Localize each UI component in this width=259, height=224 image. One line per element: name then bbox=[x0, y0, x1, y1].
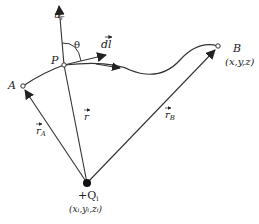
label-r: r bbox=[84, 111, 90, 122]
label-A: A bbox=[7, 79, 16, 92]
point-B bbox=[216, 44, 220, 48]
label-rB: rB bbox=[165, 109, 175, 122]
vector-rB bbox=[87, 50, 215, 183]
label-P: P bbox=[50, 54, 59, 67]
label-B: B bbox=[232, 42, 241, 55]
charge-Q bbox=[83, 179, 91, 187]
label-ur: ûr bbox=[54, 9, 64, 22]
label-dl: dl bbox=[101, 38, 112, 51]
label-rA: rA bbox=[36, 125, 46, 138]
label-B-coords: (x,y,z) bbox=[225, 56, 254, 67]
label-Q: +Qi bbox=[78, 189, 99, 203]
point-A bbox=[21, 84, 25, 88]
point-P bbox=[62, 63, 66, 67]
vector-diagram: A P B (x,y,z) +Qi (xᵢ,yᵢ,zᵢ) ûr θ dl r r… bbox=[0, 0, 259, 224]
label-Q-coords: (xᵢ,yᵢ,zᵢ) bbox=[69, 204, 103, 214]
label-theta: θ bbox=[74, 39, 80, 50]
